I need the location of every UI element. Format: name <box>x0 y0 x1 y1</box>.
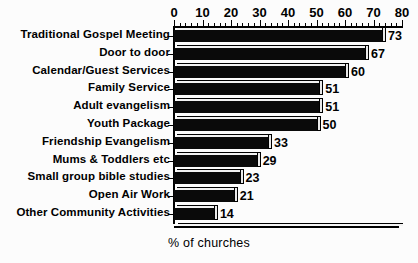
y-tick <box>168 36 174 37</box>
bar-value-label: 14 <box>220 207 234 221</box>
y-tick <box>168 196 174 197</box>
bar-front-face <box>174 119 318 131</box>
x-tick-label: 60 <box>332 5 358 21</box>
y-category-label: Youth Package <box>6 117 174 129</box>
bar-front-face <box>174 208 215 220</box>
x-tick-label: 70 <box>361 5 387 21</box>
y-tick <box>168 107 174 108</box>
bar: 23 <box>174 169 246 185</box>
y-tick <box>168 125 174 126</box>
bar-front-face <box>174 172 241 184</box>
bar-value-label: 73 <box>388 29 402 43</box>
y-category-label: Other Community Activities <box>6 206 174 218</box>
plot-floor <box>174 223 403 228</box>
bar-front-face <box>174 101 320 113</box>
bar-value-label: 51 <box>325 100 339 114</box>
x-axis-tick-labels: 01020304050607080 <box>0 5 418 21</box>
x-tick-label: 0 <box>161 5 187 21</box>
bar: 51 <box>174 98 325 114</box>
x-axis-title: % of churches <box>0 236 418 250</box>
bar-front-face <box>174 48 366 60</box>
bar-value-label: 50 <box>323 118 337 132</box>
bar: 60 <box>174 63 351 79</box>
y-category-label: Calendar/Guest Services <box>6 64 174 76</box>
x-tick-label: 80 <box>389 5 415 21</box>
y-tick <box>168 214 174 215</box>
y-category-label: Friendship Evangelism <box>6 135 174 147</box>
bar: 21 <box>174 187 240 203</box>
y-tick <box>168 72 174 73</box>
y-tick <box>168 161 174 162</box>
y-category-label: Adult evangelism <box>6 99 174 111</box>
bar: 33 <box>174 134 274 150</box>
bar-value-label: 23 <box>246 171 260 185</box>
bar-front-face <box>174 83 320 95</box>
bar-front-face <box>174 66 346 78</box>
x-tick-label: 40 <box>275 5 301 21</box>
y-category-label: Open Air Work <box>6 188 174 200</box>
bar: 51 <box>174 80 325 96</box>
bar-front-face <box>174 155 258 167</box>
y-category-label: Mums & Toddlers etc <box>6 153 174 165</box>
y-category-label: Traditional Gospel Meeting <box>6 28 174 40</box>
y-category-label: Small group bible studies <box>6 170 174 182</box>
bar: 50 <box>174 116 323 132</box>
y-tick <box>168 54 174 55</box>
y-category-label: Door to door <box>6 46 174 58</box>
bar-value-label: 51 <box>325 82 339 96</box>
bar-front-face <box>174 30 383 42</box>
y-axis-category-labels: Traditional Gospel MeetingDoor to doorCa… <box>0 27 174 223</box>
y-tick <box>168 143 174 144</box>
bar: 67 <box>174 45 371 61</box>
x-tick-label: 20 <box>218 5 244 21</box>
bar-front-face <box>174 190 235 202</box>
x-tick-label: 10 <box>190 5 216 21</box>
bar-front-face <box>174 137 269 149</box>
y-category-label: Family Service <box>6 81 174 93</box>
bar-value-label: 21 <box>240 189 254 203</box>
x-tick-label: 50 <box>304 5 330 21</box>
y-tick <box>168 178 174 179</box>
bar: 29 <box>174 152 263 168</box>
bar-value-label: 60 <box>351 65 365 79</box>
bar-value-label: 67 <box>371 47 385 61</box>
x-tick-label: 30 <box>247 5 273 21</box>
bar-value-label: 29 <box>263 154 277 168</box>
bar: 73 <box>174 27 388 43</box>
bar-value-label: 33 <box>274 136 288 150</box>
bar-chart: 01020304050607080 Traditional Gospel Mee… <box>0 0 418 263</box>
plot-floor-front <box>174 226 399 228</box>
plot-area: 7367605151503329232114 <box>174 27 402 223</box>
bar: 14 <box>174 205 220 221</box>
y-tick <box>168 89 174 90</box>
